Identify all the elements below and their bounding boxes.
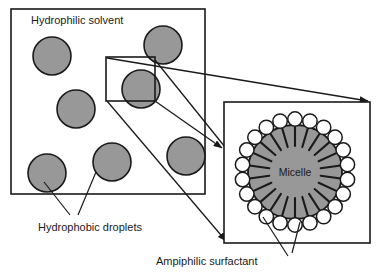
surfactant-head <box>340 157 354 171</box>
surfactant-head <box>288 112 302 126</box>
surfactant-head <box>273 114 287 128</box>
micelle-detail-panel: Micelle <box>224 102 370 243</box>
hydrophobic-droplet <box>167 137 205 175</box>
surfactant-head <box>303 216 317 230</box>
micelle-label: Micelle <box>279 166 312 178</box>
surfactant-head <box>316 209 330 223</box>
surfactant-head <box>248 200 262 214</box>
surfactant-head <box>303 114 317 128</box>
hydrophobic-droplet <box>93 143 131 181</box>
hydrophobic-droplet <box>33 37 71 75</box>
surfactant-head <box>273 216 287 230</box>
surfactant-head <box>235 157 249 171</box>
hydrophobic-droplets-label: Hydrophobic droplets <box>38 221 142 233</box>
surfactant-head <box>316 120 330 134</box>
surfactant-head <box>240 187 254 201</box>
surfactant-head <box>340 172 354 186</box>
hydrophobic-droplet <box>144 26 182 64</box>
diagram-canvas: Hydrophilic solvent Micelle Hydrophobic … <box>0 0 379 274</box>
surfactant-head <box>259 120 273 134</box>
surfactant-head <box>288 218 302 232</box>
surfactant-head <box>336 187 350 201</box>
surfactant-head <box>328 130 342 144</box>
diagram-root: Hydrophilic solvent Micelle Hydrophobic … <box>0 0 379 274</box>
ampiphilic-surfactant-label: Ampiphilic surfactant <box>156 255 258 267</box>
surfactant-head <box>248 130 262 144</box>
surfactant-head <box>336 143 350 157</box>
hydrophobic-droplet <box>57 90 95 128</box>
hydrophilic-solvent-label: Hydrophilic solvent <box>31 14 123 26</box>
surfactant-head <box>235 172 249 186</box>
surfactant-head <box>328 200 342 214</box>
surfactant-head <box>240 143 254 157</box>
